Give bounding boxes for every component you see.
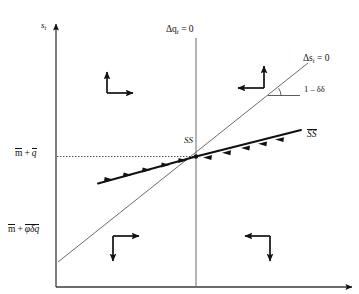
y-tick-label-lower: m+φδq bbox=[8, 225, 39, 235]
steady-state-point bbox=[194, 154, 198, 158]
saddle-path-label: SS bbox=[307, 130, 317, 140]
phase-diagram-figure: st Δqt = 0 Δst = 0 1 – δδ m+q m+φδq SS S… bbox=[0, 0, 359, 294]
steady-state-label: SS bbox=[184, 136, 193, 145]
locus-dq-zero-label: Δqt = 0 bbox=[166, 25, 194, 36]
tick-lower-plus: + bbox=[15, 224, 24, 234]
y-tick-label-upper: m+q bbox=[15, 149, 37, 159]
quadrant-arrows-top-left bbox=[107, 72, 133, 93]
tick-upper-m: m bbox=[15, 149, 22, 159]
quadrant-arrows-bottom-right bbox=[245, 236, 270, 261]
phase-diagram-canvas bbox=[0, 0, 359, 294]
tick-lower-m: m bbox=[8, 225, 15, 235]
tick-upper-plus: + bbox=[22, 148, 31, 158]
tick-lower-phidq: φδq bbox=[25, 225, 39, 235]
slope-annotation-label: 1 – δδ bbox=[304, 85, 325, 94]
locus-ds-zero-line bbox=[58, 63, 308, 262]
saddle-path-curve bbox=[98, 130, 301, 184]
quadrant-arrows-top-right bbox=[238, 66, 264, 88]
locus-ds-zero-label: Δst = 0 bbox=[303, 54, 330, 65]
saddle-path-arrow-right-branch bbox=[203, 137, 284, 160]
tick-upper-q: q bbox=[32, 149, 37, 159]
y-axis-label: st bbox=[41, 21, 46, 31]
quadrant-arrows-bottom-left bbox=[113, 236, 139, 261]
slope-angle-marker bbox=[268, 88, 300, 95]
